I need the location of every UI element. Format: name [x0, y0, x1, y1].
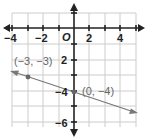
y-tick-label-neg4: −4	[55, 86, 68, 98]
x-tick-label-neg4: −4	[4, 32, 17, 44]
coordinate-plane: −4 −2 O 2 4 2 −4 −6 (−3, −3) (0, −4)	[0, 0, 148, 139]
line-right-arrow-icon	[129, 109, 138, 115]
point-0-neg4	[72, 90, 77, 95]
point-label-0-neg4: (0, −4)	[82, 85, 114, 97]
point-neg3-neg3	[26, 75, 31, 80]
y-axis-up-arrow-icon	[70, 3, 78, 11]
y-tick-label-neg6: −6	[55, 117, 68, 129]
x-tick-label-neg2: −2	[35, 32, 48, 44]
origin-label: O	[62, 31, 71, 43]
x-tick-label-4: 4	[117, 32, 124, 44]
point-label-neg3-neg3: (−3, −3)	[14, 55, 53, 67]
x-axis-right-arrow-icon	[138, 24, 145, 32]
y-axis	[71, 5, 77, 134]
y-tick-label-2: 2	[61, 54, 67, 66]
x-tick-label-2: 2	[86, 32, 92, 44]
y-axis-down-arrow-icon	[70, 129, 78, 137]
x-axis-left-arrow-icon	[3, 24, 10, 32]
